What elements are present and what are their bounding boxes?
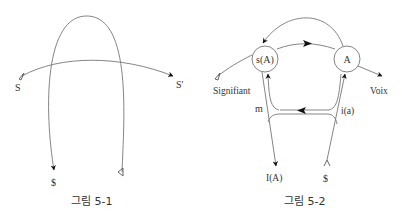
label-voix: Voix bbox=[370, 86, 388, 96]
crossbar-lower-left-curve bbox=[268, 114, 337, 124]
chain-open-tail-icon bbox=[19, 73, 24, 80]
graph-of-desire-diagrams: S S' $ 그림 5-1 s(A) A Signifiant Voix bbox=[0, 0, 402, 218]
node-s-of-a-label: s(A) bbox=[256, 54, 274, 66]
signifiant-open-tail-icon bbox=[215, 73, 220, 80]
label-barred-subject: $ bbox=[51, 177, 56, 188]
signifiant-line bbox=[218, 55, 252, 76]
label-m: m bbox=[255, 103, 263, 114]
upper-arc-line bbox=[263, 18, 343, 46]
label-barred-subject-2: $ bbox=[323, 173, 328, 184]
label-ideal-of-a: I(A) bbox=[266, 173, 282, 184]
right-open-tail-icon bbox=[324, 160, 330, 166]
left-up-line bbox=[268, 74, 279, 110]
node-a-label: A bbox=[343, 54, 351, 65]
figure-5-1: S S' $ 그림 5-1 bbox=[15, 16, 184, 208]
voix-line bbox=[358, 66, 382, 76]
label-signifiant: Signifiant bbox=[213, 86, 251, 96]
figure-5-1-caption: 그림 5-1 bbox=[71, 195, 112, 208]
label-s: S bbox=[15, 82, 21, 93]
figure-5-2: s(A) A Signifiant Voix m i(a) I(A) $ 그림 … bbox=[213, 18, 388, 208]
right-branch-line bbox=[329, 74, 341, 110]
right-up-line bbox=[327, 74, 345, 160]
label-i-of-a: i(a) bbox=[341, 106, 354, 117]
figure-5-2-caption: 그림 5-2 bbox=[284, 195, 325, 208]
label-s-prime: S' bbox=[176, 79, 184, 90]
crossbar-arrow-icon bbox=[297, 107, 306, 114]
signifying-chain-line bbox=[22, 60, 173, 76]
retroactive-loop-line bbox=[49, 16, 124, 172]
